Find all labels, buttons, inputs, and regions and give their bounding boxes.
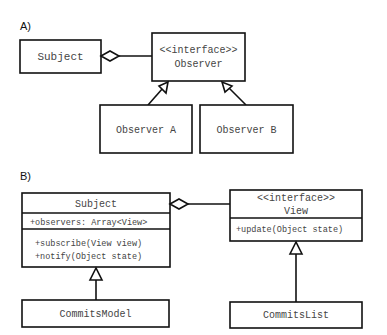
class-name: Observer B <box>216 125 276 136</box>
uml-diagrams: A) Subject <<interface>> Observer <box>0 0 387 335</box>
method: +notify(Object state) <box>35 252 142 262</box>
class-observer-b: Observer B <box>200 105 293 153</box>
method: +subscribe(View view) <box>35 239 142 249</box>
aggregation-connector-a <box>101 51 152 61</box>
triangle-arrow-icon <box>290 242 302 254</box>
diagram-b: B) Subject +observers: Array<View> +subs… <box>20 170 362 328</box>
aggregation-diamond-icon <box>101 51 119 61</box>
stereotype: <<interface>> <box>159 45 237 56</box>
class-subject-b: Subject +observers: Array<View> +subscri… <box>22 193 170 267</box>
class-observer-a: Observer A <box>100 105 192 153</box>
realization-arrow-b <box>222 82 246 105</box>
method: +update(Object state) <box>236 225 343 235</box>
diagram-a: A) Subject <<interface>> Observer <box>20 20 293 153</box>
class-commits-model: CommitsModel <box>22 300 169 327</box>
class-subject-a: Subject <box>20 40 101 73</box>
diagram-b-label: B) <box>20 170 31 182</box>
interface-name: View <box>284 206 308 217</box>
diagram-a-label: A) <box>20 20 31 32</box>
class-name: Observer A <box>116 125 176 136</box>
class-name: CommitsModel <box>59 309 131 320</box>
attribute: +observers: Array<View> <box>30 218 147 228</box>
inheritance-arrow <box>90 268 102 300</box>
stereotype: <<interface>> <box>257 193 335 204</box>
class-commits-list: CommitsList <box>230 302 362 328</box>
interface-observer: <<interface>> Observer <box>152 33 245 81</box>
realization-arrow-view <box>290 242 302 302</box>
interface-view: <<interface>> View +update(Object state) <box>230 190 362 241</box>
realization-arrow-a <box>148 82 168 105</box>
class-name: Subject <box>75 199 117 210</box>
class-name: CommitsList <box>263 310 329 321</box>
triangle-arrow-icon <box>90 268 102 280</box>
interface-name: Observer <box>174 59 222 70</box>
class-name: Subject <box>37 51 83 63</box>
aggregation-diamond-icon <box>170 199 188 209</box>
aggregation-connector-b <box>170 199 230 209</box>
